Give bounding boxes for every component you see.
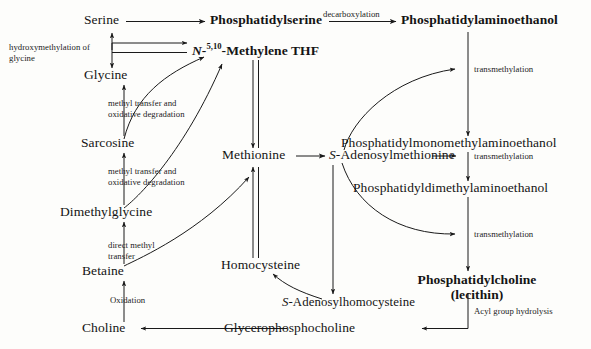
node-pmme[interactable]: Phosphatidylmonomethylaminoethanol xyxy=(341,136,557,150)
node-glycine[interactable]: Glycine xyxy=(84,68,127,82)
phosphatidylcholine-line1: Phosphatidylcholine xyxy=(410,272,544,287)
methylene-thf-suffix: -Methylene THF xyxy=(222,43,320,58)
label-transmethylation-2: transmethylation xyxy=(474,151,533,162)
node-phosphatidylaminoethanol[interactable]: Phosphatidylaminoethanol xyxy=(401,13,558,27)
sah-suffix: -Adenosylhomocysteine xyxy=(289,295,416,309)
node-serine[interactable]: Serine xyxy=(84,13,119,27)
label-transmethylation-1: transmethylation xyxy=(474,64,533,75)
label-methyl-transfer-oxidative-degradation-1: methyl transfer and oxidative degradatio… xyxy=(108,98,186,120)
node-pdme[interactable]: Phosphatidyldimethylaminoethanol xyxy=(353,181,548,195)
node-homocysteine[interactable]: Homocysteine xyxy=(221,258,300,272)
label-hydroxymethylation-of-glycine: hydroxymethylation of glycine xyxy=(9,42,109,64)
node-methylene-thf[interactable]: N-5,10-Methylene THF xyxy=(192,42,319,58)
pathway-diagram: Serine Phosphatidylserine Phosphatidylam… xyxy=(0,0,591,349)
node-choline[interactable]: Choline xyxy=(82,321,125,335)
label-acyl-group-hydrolysis: Acyl group hydrolysis xyxy=(474,306,553,317)
node-sah[interactable]: S-Adenosylhomocysteine xyxy=(282,296,415,310)
label-methyl-transfer-oxidative-degradation-2: methyl transfer and oxidative degradatio… xyxy=(108,166,186,188)
sam-prefix: S xyxy=(329,147,336,162)
label-direct-methyl-transfer: direct methyl transfer xyxy=(108,240,170,262)
label-decarboxylation: decarboxylation xyxy=(323,9,380,20)
node-phosphatidylcholine[interactable]: Phosphatidylcholine (lecithin) xyxy=(410,272,544,302)
label-oxidation: Oxidation xyxy=(110,295,145,306)
node-sarcosine[interactable]: Sarcosine xyxy=(81,136,134,150)
node-dimethylglycine[interactable]: Dimethylglycine xyxy=(60,205,152,219)
methylene-thf-prefix: N xyxy=(192,43,202,58)
node-methionine[interactable]: Methionine xyxy=(222,148,285,162)
arrow-sam-to-transmethylation-3 xyxy=(342,163,455,234)
methylene-thf-superscript: 5,10 xyxy=(206,41,221,51)
node-betaine[interactable]: Betaine xyxy=(82,264,124,278)
phosphatidylcholine-line2: (lecithin) xyxy=(410,287,544,302)
node-glycerophosphocholine[interactable]: Glycerophosphocholine xyxy=(224,321,355,335)
node-phosphatidylserine[interactable]: Phosphatidylserine xyxy=(210,13,322,27)
label-transmethylation-3: transmethylation xyxy=(474,229,533,240)
